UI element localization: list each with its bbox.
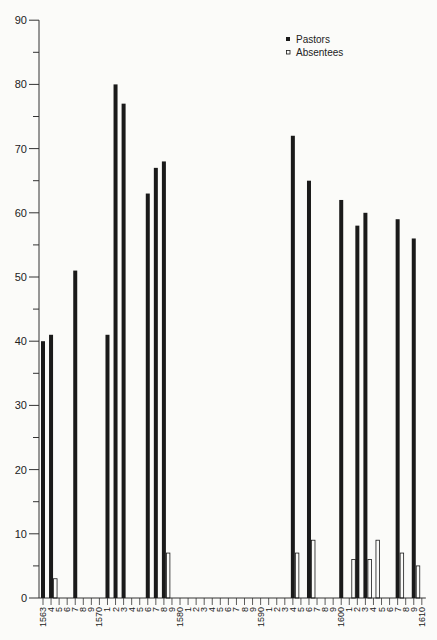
bar-absentees (54, 579, 58, 598)
bar-pastors (73, 271, 77, 598)
bar-absentees (166, 553, 170, 598)
bar-absentees (311, 540, 315, 598)
y-axis: 0102030405060708090 (15, 14, 39, 604)
bar-pastors (291, 136, 295, 598)
y-tick-label: 0 (21, 592, 27, 604)
legend-absentees-marker (287, 51, 291, 55)
bar-pastors (105, 335, 109, 598)
bar-pastors (307, 181, 311, 598)
bar-pastors (49, 335, 53, 598)
bar-absentees (416, 566, 420, 598)
bar-pastors (339, 200, 343, 598)
bar-pastors (122, 104, 126, 598)
bar-pastors (396, 219, 400, 598)
y-tick-label: 60 (15, 207, 27, 219)
bar-absentees (368, 559, 372, 598)
bar-chart: 0102030405060708090 15634567891570123456… (0, 0, 437, 640)
y-tick-label: 80 (15, 78, 27, 90)
y-tick-label: 30 (15, 399, 27, 411)
y-tick-label: 70 (15, 143, 27, 155)
bar-pastors (162, 161, 166, 598)
bar-absentees (376, 540, 380, 598)
y-tick-label: 90 (15, 14, 27, 26)
x-axis: 1563456789157012345678915801234567891590… (38, 598, 427, 627)
bar-absentees (295, 553, 299, 598)
y-tick-label: 40 (15, 335, 27, 347)
legend-absentees-label: Absentees (296, 47, 343, 58)
bars (41, 84, 420, 598)
y-tick-label: 10 (15, 528, 27, 540)
legend: Pastors Absentees (286, 34, 343, 58)
legend-pastors-marker (286, 37, 290, 41)
bar-pastors (412, 238, 416, 598)
bar-pastors (114, 84, 118, 598)
x-tick-label: 1610 (417, 607, 427, 627)
legend-pastors-label: Pastors (296, 34, 330, 45)
bar-pastors (154, 168, 158, 598)
bar-pastors (363, 213, 367, 598)
bar-pastors (146, 194, 150, 598)
y-tick-label: 50 (15, 271, 27, 283)
bar-absentees (352, 559, 356, 598)
y-tick-label: 20 (15, 464, 27, 476)
bar-pastors (41, 341, 45, 598)
bar-absentees (400, 553, 404, 598)
bar-pastors (355, 226, 359, 598)
